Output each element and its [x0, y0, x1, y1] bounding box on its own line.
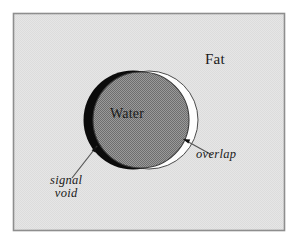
- label-signal-void: signalvoid: [50, 174, 82, 201]
- label-signal-void-line1: signal: [50, 173, 82, 187]
- diagram-canvas: [0, 0, 299, 248]
- label-signal-void-line2: void: [50, 187, 82, 200]
- figure-root: Fat Water overlap signalvoid: [0, 0, 299, 248]
- label-water: Water: [110, 107, 144, 122]
- label-overlap: overlap: [196, 148, 236, 161]
- label-fat: Fat: [205, 52, 225, 68]
